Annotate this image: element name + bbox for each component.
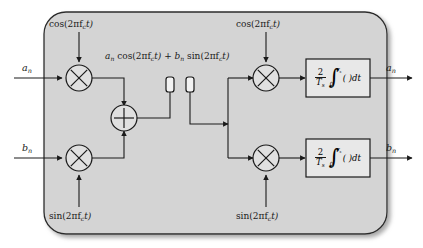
carrier-label-rx-sin: sin(2πfct): [236, 212, 278, 222]
integral-symbol-q: ∫ Ts 0: [328, 149, 341, 166]
integrator-fraction-i: 2 Ts: [315, 68, 326, 88]
integral-symbol-i: ∫ Ts 0: [328, 69, 341, 86]
integrator-formula-i: 2 Ts ∫ Ts 0 ( )dt: [306, 59, 370, 97]
output-label-b: bn: [386, 143, 396, 154]
integrator-formula-q: 2 Ts ∫ Ts 0 ( )dt: [306, 139, 370, 177]
carrier-label-tx-cos: cos(2πfct): [49, 20, 93, 30]
transmit-antenna: [166, 77, 174, 92]
output-label-a: an: [386, 63, 396, 74]
integrator-fraction-q: 2 Ts: [315, 148, 326, 168]
carrier-label-tx-sin: sin(2πfct): [49, 212, 91, 222]
diagram-panel: [44, 12, 387, 234]
qam-block-diagram: an bn an bn cos(2πfct) sin(2πfct) cos(2π…: [0, 0, 423, 248]
receive-antenna: [186, 77, 194, 92]
carrier-label-rx-cos: cos(2πfct): [236, 20, 280, 30]
composite-signal-label: an cos(2πfct) + bn sin(2πfct): [105, 52, 229, 62]
input-label-b: bn: [22, 143, 32, 154]
input-label-a: an: [22, 63, 32, 74]
